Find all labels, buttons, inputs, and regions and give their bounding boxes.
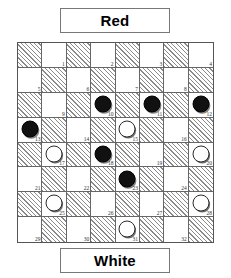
square-number-label: 32 (181, 236, 187, 242)
board-square-16[interactable]: 16 (164, 118, 188, 143)
square-number-label: 9 (62, 111, 65, 118)
square-number-label: 30 (84, 236, 90, 242)
board-square-blocked (67, 143, 91, 168)
top-player-label: Red (101, 13, 130, 28)
board-square-blocked (164, 93, 188, 118)
square-number-label: 31 (132, 236, 138, 242)
square-number-label: 20 (207, 160, 213, 167)
board-square-3[interactable]: 3 (140, 43, 164, 68)
white-piece[interactable] (119, 220, 136, 237)
board-square-blocked (18, 192, 42, 217)
square-number-label: 14 (84, 136, 90, 143)
board-square-24[interactable]: 24 (164, 167, 188, 192)
square-number-label: 11 (157, 111, 162, 118)
square-number-label: 5 (38, 86, 41, 93)
board-square-29[interactable]: 29 (18, 217, 42, 242)
board-square-blocked (116, 93, 140, 118)
board-square-blocked (91, 118, 115, 143)
board-square-10[interactable]: 10 (91, 93, 115, 118)
board-square-22[interactable]: 22 (67, 167, 91, 192)
square-number-label: 12 (207, 111, 213, 118)
board-square-5[interactable]: 5 (18, 68, 42, 93)
board-square-11[interactable]: 11 (140, 93, 164, 118)
square-number-label: 22 (84, 185, 90, 192)
square-number-label: 1 (62, 61, 65, 68)
square-number-label: 2 (111, 61, 114, 68)
board-square-blocked (189, 68, 213, 93)
board-square-1[interactable]: 1 (42, 43, 66, 68)
square-number-label: 27 (157, 210, 163, 217)
board-square-28[interactable]: 28 (189, 192, 213, 217)
board-square-blocked (116, 143, 140, 168)
board-square-21[interactable]: 21 (18, 167, 42, 192)
board-square-blocked (42, 118, 66, 143)
board-square-19[interactable]: 19 (140, 143, 164, 168)
square-number-label: 6 (86, 86, 89, 93)
board-square-blocked (164, 43, 188, 68)
board-square-25[interactable]: 25 (42, 192, 66, 217)
square-number-label: 4 (209, 61, 212, 68)
board-square-blocked (164, 192, 188, 217)
board-square-23[interactable]: 23 (116, 167, 140, 192)
square-number-label: 3 (160, 61, 163, 68)
square-number-label: 10 (108, 111, 114, 118)
board-square-31[interactable]: 31 (116, 217, 140, 242)
board-square-6[interactable]: 6 (67, 68, 91, 93)
square-number-label: 15 (132, 136, 138, 143)
board-square-blocked (116, 43, 140, 68)
board-square-15[interactable]: 15 (116, 118, 140, 143)
bottom-player-label: White (94, 253, 136, 268)
board-square-17[interactable]: 17 (42, 143, 66, 168)
square-number-label: 29 (35, 236, 41, 242)
board-square-blocked (67, 93, 91, 118)
board-square-12[interactable]: 12 (189, 93, 213, 118)
square-number-label: 28 (207, 210, 213, 217)
board-square-blocked (140, 118, 164, 143)
board-square-blocked (42, 167, 66, 192)
square-number-label: 25 (59, 210, 65, 217)
board-square-7[interactable]: 7 (116, 68, 140, 93)
square-number-label: 23 (132, 185, 138, 192)
board-square-blocked (42, 68, 66, 93)
board-square-9[interactable]: 9 (42, 93, 66, 118)
top-player-plate: Red (60, 8, 170, 33)
board-square-blocked (42, 217, 66, 242)
board-square-27[interactable]: 27 (140, 192, 164, 217)
board-square-8[interactable]: 8 (164, 68, 188, 93)
board-square-20[interactable]: 20 (189, 143, 213, 168)
square-number-label: 17 (59, 160, 65, 167)
square-number-label: 26 (108, 210, 114, 217)
board-square-blocked (67, 192, 91, 217)
square-number-label: 16 (181, 136, 187, 143)
square-number-label: 18 (108, 160, 114, 167)
board-square-blocked (18, 43, 42, 68)
square-number-label: 13 (35, 136, 41, 143)
board-square-2[interactable]: 2 (91, 43, 115, 68)
checkers-board[interactable]: 1234567891011121314151617181920212223242… (17, 42, 214, 243)
board-square-blocked (140, 167, 164, 192)
square-number-label: 7 (135, 86, 138, 93)
board-square-26[interactable]: 26 (91, 192, 115, 217)
board-square-4[interactable]: 4 (189, 43, 213, 68)
board-square-blocked (189, 118, 213, 143)
board-square-blocked (18, 143, 42, 168)
square-number-label: 19 (157, 160, 163, 167)
board-square-blocked (116, 192, 140, 217)
board-square-32[interactable]: 32 (164, 217, 188, 242)
board-square-blocked (189, 217, 213, 242)
checkers-game-window: Red 123456789101112131415161718192021222… (0, 0, 231, 278)
square-number-label: 21 (35, 185, 41, 192)
board-square-blocked (91, 217, 115, 242)
board-square-13[interactable]: 13 (18, 118, 42, 143)
board-square-14[interactable]: 14 (67, 118, 91, 143)
board-square-30[interactable]: 30 (67, 217, 91, 242)
board-square-blocked (67, 43, 91, 68)
board-square-blocked (140, 68, 164, 93)
board-square-18[interactable]: 18 (91, 143, 115, 168)
board-square-blocked (91, 68, 115, 93)
square-number-label: 8 (184, 86, 187, 93)
board-square-blocked (189, 167, 213, 192)
board-square-blocked (91, 167, 115, 192)
bottom-player-plate: White (60, 248, 170, 273)
board-square-blocked (140, 217, 164, 242)
